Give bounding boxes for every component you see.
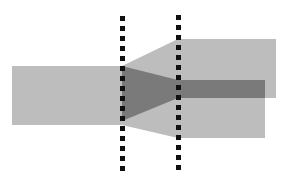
lower-outgoing-band (178, 98, 265, 138)
incoming-band (12, 66, 124, 125)
highlighted-subflow (178, 80, 265, 98)
flow-split-diagram (0, 0, 288, 180)
